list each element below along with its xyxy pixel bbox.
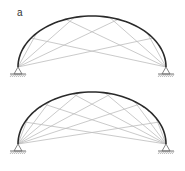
- cable: [18, 38, 153, 67]
- cable: [31, 38, 166, 67]
- cable: [18, 19, 118, 67]
- cable-network: [18, 17, 166, 67]
- arch-top: [10, 16, 174, 77]
- cable: [134, 101, 166, 144]
- cable: [66, 19, 166, 67]
- right-support-icon: [158, 67, 174, 77]
- right-support-icon: [158, 144, 174, 154]
- arch-rib: [18, 92, 166, 144]
- cable: [18, 101, 50, 144]
- cable-network: [18, 93, 166, 144]
- left-support-icon: [10, 144, 26, 154]
- arch-diagram-canvas: [0, 0, 185, 171]
- arch-rib: [18, 16, 166, 67]
- cable: [147, 33, 166, 67]
- left-support-icon: [10, 67, 26, 77]
- arch-bottom: [10, 92, 174, 154]
- cable: [18, 33, 37, 67]
